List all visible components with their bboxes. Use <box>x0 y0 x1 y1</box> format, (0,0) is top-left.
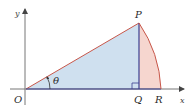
label-theta: θ <box>53 75 59 86</box>
label-r: R <box>154 94 163 105</box>
label-o: O <box>14 94 22 105</box>
label-y-axis: y <box>14 9 20 18</box>
sector-region <box>139 23 161 89</box>
label-x-axis: x <box>180 96 185 105</box>
label-p: P <box>134 9 142 20</box>
diagram-canvas: O P Q R θ x y <box>0 0 194 111</box>
label-q: Q <box>134 94 142 105</box>
